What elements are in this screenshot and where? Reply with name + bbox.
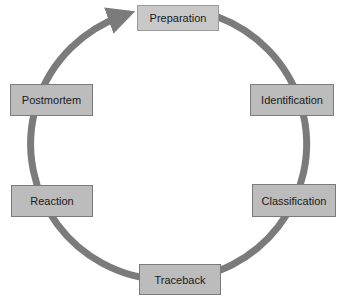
stage-label: Identification [261, 94, 323, 106]
stage-label: Reaction [30, 195, 73, 207]
stage-postmortem: Postmortem [10, 84, 93, 116]
stage-identification: Identification [250, 84, 334, 116]
cycle-arc-path [31, 16, 307, 280]
stage-label: Preparation [150, 12, 207, 24]
stage-preparation: Preparation [137, 5, 219, 31]
stage-reaction: Reaction [11, 185, 93, 217]
stage-label: Classification [262, 195, 327, 207]
stage-classification: Classification [252, 184, 336, 217]
stage-traceback: Traceback [139, 264, 221, 295]
stage-label: Traceback [155, 274, 206, 286]
incident-response-cycle-diagram: Preparation Identification Classificatio… [0, 0, 341, 303]
stage-label: Postmortem [22, 94, 81, 106]
cycle-arc [0, 0, 341, 303]
